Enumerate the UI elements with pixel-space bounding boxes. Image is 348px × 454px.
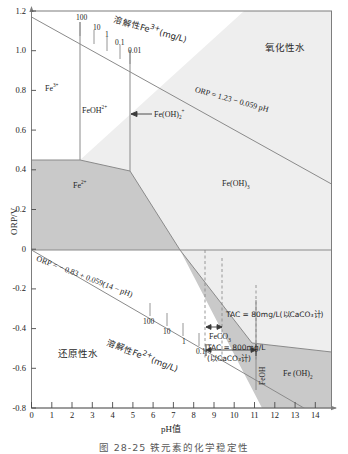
x-tick-7: 7: [166, 411, 180, 420]
region-label-feoh2plus-sup: +: [181, 108, 184, 114]
x-tick-4: 4: [106, 411, 120, 420]
fe2-conc-tick-1: 1: [182, 338, 186, 346]
fe3-conc-tick-10: 10: [93, 24, 101, 32]
fe3-conc-tick-1: 1: [105, 31, 109, 39]
region-label-feoh3-text: Fe(OH): [222, 179, 247, 188]
region-label-fe3-sup: 3+: [53, 82, 59, 88]
region-label-fe2: Fe2+: [73, 180, 87, 190]
y-tick-5: 0.4: [0, 165, 26, 174]
x-tick-1: 1: [45, 411, 59, 420]
x-tick-12: 12: [268, 411, 282, 420]
fe3-conc-tick-0.01: 0.01: [128, 47, 141, 55]
x-tick-14: 14: [308, 411, 322, 420]
pourbaix-diagram-figure: 1.2 1.0 0.8 0.6 0.4 0.2 0 -0.2 -0.4 -0.6…: [0, 0, 348, 454]
y-tick-3: 0.8: [0, 86, 26, 95]
annotation-tac-800-line1: TAC = 800mg/L: [207, 344, 265, 352]
region-label-feoh2: Fe (OH)2: [283, 370, 312, 380]
zone-label-reducing-water: 还原性水: [58, 349, 98, 359]
fe3-conc-tick-100: 100: [76, 14, 87, 22]
y-tick-4: 0.6: [0, 126, 26, 135]
region-label-feoh3-sub: 3: [247, 184, 250, 190]
region-label-feco3-text: FeCO: [209, 332, 228, 341]
x-tick-0: 0: [25, 411, 39, 420]
x-tick-5: 5: [126, 411, 140, 420]
region-label-fe3: Fe3+: [45, 83, 59, 93]
annotation-tac-80: TAC = 80mg/L(以CaCO₃计): [226, 311, 323, 319]
annotation-tac-800-line2: (以CaCO₃计): [207, 355, 251, 363]
fe2-conc-tick-100: 100: [143, 318, 154, 326]
figure-caption: 图 28-25 铁元素的化学稳定性: [0, 440, 348, 454]
region-label-feco3-sub: 3: [228, 337, 231, 343]
y-tick-8: -0.2: [0, 284, 26, 293]
region-label-feoh2plus: Fe(OH)2+: [154, 109, 184, 120]
y-axis-title: ORP/V: [10, 207, 19, 235]
region-label-feoh2p: FeOH2+: [82, 105, 107, 115]
region-label-feoh2plus-sub: 2: [179, 114, 182, 120]
y-tick-10: -0.6: [0, 364, 26, 373]
x-tick-10: 10: [227, 411, 241, 420]
region-label-feoh2-sub: 2: [310, 374, 313, 380]
x-tick-8: 8: [187, 411, 201, 420]
region-label-feoh2p-sup: 2+: [102, 104, 108, 110]
y-tick-7: 0: [0, 245, 26, 254]
y-tick-2: 1.0: [0, 46, 26, 55]
y-tick-9: -0.4: [0, 324, 26, 333]
region-label-feoh-vertical: FeOH: [259, 367, 267, 385]
region-label-feoh3: Fe(OH)3: [222, 180, 249, 190]
region-label-feoh2-text: Fe (OH): [283, 369, 310, 378]
region-label-fe2-text: Fe: [73, 181, 81, 190]
region-label-feoh2p-text: FeOH: [82, 106, 102, 115]
x-tick-2: 2: [65, 411, 79, 420]
fe3-conc-tick-0.1: 0.1: [115, 39, 124, 47]
region-label-feoh2plus-text: Fe(OH): [154, 110, 179, 119]
x-tick-9: 9: [207, 411, 221, 420]
x-axis-title: pH值: [161, 425, 181, 434]
diagram-canvas: [0, 0, 348, 454]
region-label-fe3-text: Fe: [45, 84, 53, 93]
x-tick-13: 13: [288, 411, 302, 420]
fe2-conc-tick-10: 10: [163, 328, 171, 336]
y-tick-1: 1.2: [0, 7, 26, 16]
x-tick-11: 11: [248, 411, 262, 420]
x-tick-3: 3: [85, 411, 99, 420]
x-tick-6: 6: [146, 411, 160, 420]
y-tick-11: -0.8: [0, 404, 26, 413]
region-label-feco3: FeCO3: [209, 333, 231, 343]
zone-label-oxidizing-water: 氧化性水: [265, 43, 305, 53]
fe2-conc-tick-0.1: 0.1: [196, 348, 205, 356]
region-label-fe2-sup: 2+: [81, 179, 87, 185]
